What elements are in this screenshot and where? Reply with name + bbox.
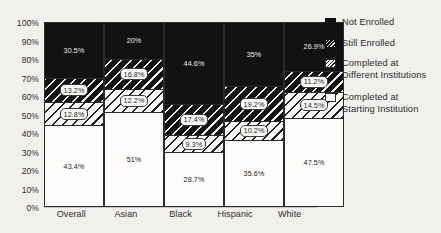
y-tick-label: 0% [27, 203, 40, 213]
bar-slot: 35%19.2%10.2%35.6% [224, 22, 284, 207]
bar-slot: 44.6%17.4%9.3%28.7% [164, 22, 224, 207]
chart-figure: 100% 90% 80% 70% 60% 50% 40% 30% 20% 10%… [0, 0, 441, 233]
bar-segment-label: 16.8% [120, 68, 149, 80]
y-tick-label: 30% [22, 148, 39, 158]
stacked-bar[interactable]: 44.6%17.4%9.3%28.7% [164, 22, 224, 207]
legend-item-completed-different: Completed at Different Institutions [325, 58, 437, 81]
x-tick-label: Overall [44, 209, 99, 219]
legend-swatch-icon [325, 59, 336, 68]
bar-segment[interactable]: 44.6% [165, 23, 223, 105]
bar-segment-label: 12.8% [60, 108, 89, 120]
y-tick-label: 100% [17, 18, 39, 28]
legend-swatch-icon [325, 18, 336, 27]
legend-label: Completed at Different Institutions [342, 58, 426, 81]
legend-label: Still Enrolled [342, 38, 395, 50]
stacked-bar[interactable]: 35%19.2%10.2%35.6% [224, 22, 284, 207]
y-tick-label: 90% [22, 37, 39, 47]
bar-segment[interactable]: 16.8% [105, 60, 163, 91]
bar-segment-label: 28.7% [184, 176, 205, 183]
y-tick-label: 40% [22, 129, 39, 139]
bar-segment-label: 35% [247, 51, 262, 58]
bar-segment[interactable]: 35.6% [225, 141, 283, 206]
legend-item-still-enrolled: Still Enrolled [325, 38, 437, 50]
y-tick-label: 70% [22, 74, 39, 84]
y-tick-label: 50% [22, 111, 39, 121]
bar-slot: 30.5%13.2%12.8%43.4% [44, 22, 104, 207]
bar-segment-label: 9.3% [182, 138, 207, 150]
bar-segment-label: 47.5% [304, 159, 325, 166]
bar-segment-label: 20% [127, 37, 142, 44]
bar-segment-label: 17.4% [180, 114, 209, 126]
bar-segment-label: 51% [127, 156, 142, 163]
legend-label: Completed at Starting Institution [342, 92, 418, 115]
legend-swatch-icon [325, 39, 336, 48]
bar-segment[interactable]: 10.2% [225, 122, 283, 141]
bar-segment[interactable]: 43.4% [45, 126, 103, 206]
bar-segment-label: 10.2% [240, 125, 269, 137]
stacked-bar[interactable]: 20%16.8%12.2%51% [104, 22, 164, 207]
plot-area: 100% 90% 80% 70% 60% 50% 40% 30% 20% 10%… [44, 22, 317, 207]
bar-segment-label: 13.2% [60, 84, 89, 96]
legend-item-completed-starting: Completed at Starting Institution [325, 92, 437, 115]
x-axis-labels: Overall Asian Black Hispanic White [44, 209, 317, 219]
bar-segment-label: 44.6% [184, 60, 205, 67]
bar-segment-label: 35.6% [244, 170, 265, 177]
bar-segment[interactable]: 47.5% [285, 119, 343, 206]
bar-segment[interactable]: 35% [225, 23, 283, 87]
x-tick-label: Asian [99, 209, 154, 219]
chart-legend: Not Enrolled Still Enrolled Completed at… [325, 17, 437, 126]
bar-segment[interactable]: 30.5% [45, 23, 103, 79]
y-tick-label: 60% [22, 92, 39, 102]
bar-segment[interactable]: 20% [105, 23, 163, 60]
bar-segment-label: 12.2% [120, 95, 149, 107]
bar-segment-label: 14.5% [300, 99, 329, 111]
bar-segment[interactable]: 19.2% [225, 87, 283, 122]
bar-segment-label: 26.9% [304, 43, 325, 50]
bar-segment[interactable]: 17.4% [165, 105, 223, 137]
legend-item-not-enrolled: Not Enrolled [325, 17, 437, 29]
bar-segment[interactable]: 9.3% [165, 136, 223, 153]
x-tick-label: Black [153, 209, 208, 219]
bar-segment-label: 43.4% [64, 163, 85, 170]
bar-segment[interactable]: 28.7% [165, 153, 223, 206]
y-tick-label: 80% [22, 55, 39, 65]
bar-slot: 20%16.8%12.2%51% [104, 22, 164, 207]
bar-segment[interactable]: 12.2% [105, 90, 163, 112]
legend-label: Not Enrolled [342, 17, 394, 29]
y-tick-label: 10% [22, 185, 39, 195]
stacked-bar[interactable]: 30.5%13.2%12.8%43.4% [44, 22, 104, 207]
bar-segment[interactable]: 12.8% [45, 103, 103, 126]
x-tick-label: Hispanic [208, 209, 263, 219]
bar-group: 30.5%13.2%12.8%43.4%20%16.8%12.2%51%44.6… [44, 22, 317, 207]
x-tick-label: White [262, 209, 317, 219]
bar-segment[interactable]: 13.2% [45, 79, 103, 103]
gridline: 0% [44, 207, 317, 208]
bar-segment-label: 19.2% [240, 98, 269, 110]
y-tick-label: 20% [22, 166, 39, 176]
bar-segment-label: 11.2% [300, 76, 328, 88]
bar-segment-label: 30.5% [64, 47, 85, 54]
bar-segment[interactable]: 51% [105, 113, 163, 206]
